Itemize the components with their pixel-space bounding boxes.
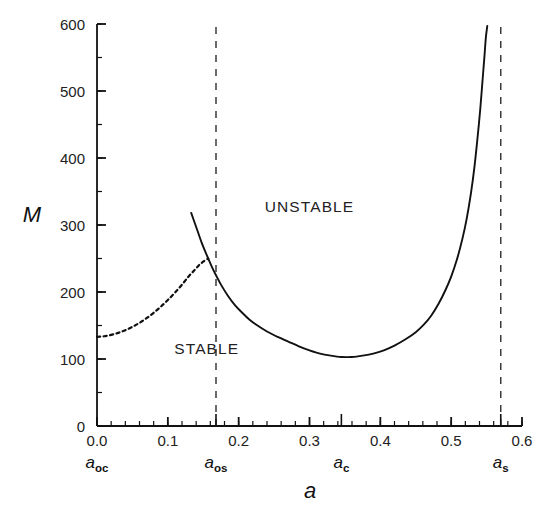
y-tick-labels-group: 0100200300400500600 [60, 16, 85, 435]
y-tick-label: 200 [60, 284, 85, 301]
vertical-dashed-lines-group [216, 24, 501, 426]
x-tick-label: 0.5 [441, 432, 462, 449]
x-tick-label: 0.6 [512, 432, 533, 449]
y-tick-label: 400 [60, 150, 85, 167]
a_c-subscript: c [343, 462, 350, 474]
y-tick-label: 500 [60, 83, 85, 100]
a_c-label: ac [333, 453, 349, 474]
a_oc-subscript: oc [95, 462, 109, 474]
region-annotations-group: UNSTABLESTABLE [174, 198, 354, 357]
x-tick-label: 0.3 [299, 432, 320, 449]
y-tick-label: 0 [77, 418, 85, 435]
a_oc-base: a [86, 453, 95, 472]
a_s-label: as [493, 453, 509, 474]
x-tick-label: 0.2 [228, 432, 249, 449]
y-tick-label: 100 [60, 351, 85, 368]
a_s-base: a [493, 453, 502, 472]
x-tick-label: 0.1 [157, 432, 178, 449]
unstable-branch-dashed [97, 259, 208, 337]
phase-diagram-plot: 0.00.10.20.30.40.50.6 010020030040050060… [0, 0, 544, 511]
x-tick-labels-group: 0.00.10.20.30.40.50.6 [87, 432, 533, 449]
a_oc-label: aoc [86, 453, 109, 474]
a_os-base: a [205, 453, 214, 472]
region-label-unstable: UNSTABLE [265, 198, 354, 215]
stability-boundary-solid [191, 26, 487, 357]
y-tick-label: 300 [60, 217, 85, 234]
axes-group [97, 24, 522, 426]
y-tick-label: 600 [60, 16, 85, 33]
a_c-base: a [333, 453, 342, 472]
data-curves-group [97, 26, 487, 357]
x-tick-label: 0.4 [370, 432, 391, 449]
region-label-stable: STABLE [174, 340, 239, 357]
x-tick-label: 0.0 [87, 432, 108, 449]
y-axis-title: M [23, 202, 42, 227]
chart-container: 0.00.10.20.30.40.50.6 010020030040050060… [0, 0, 544, 511]
a_os-label: aos [205, 453, 228, 474]
x-axis-title: a [304, 478, 316, 503]
a_os-subscript: os [214, 462, 227, 474]
a_s-subscript: s [502, 462, 508, 474]
